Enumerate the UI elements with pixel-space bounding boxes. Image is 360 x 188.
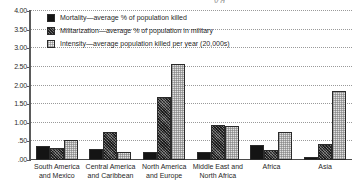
clipped-title-fragment: y g — [214, 0, 225, 3]
bar-mortality — [250, 145, 264, 160]
bar-mortality — [197, 152, 211, 160]
legend-item: Intensity—average population killed per … — [47, 37, 230, 50]
y-axis-tick-label: 2.50 — [1, 63, 27, 70]
x-axis-category-label: Asia — [298, 163, 352, 172]
x-axis-category-label: North America and Europe — [137, 163, 191, 180]
y-axis-tick-label: 2.00 — [1, 82, 27, 89]
x-axis-category-label: Middle East and North Africa — [191, 163, 245, 180]
bar-intensity — [278, 132, 292, 160]
bar-mortality — [36, 146, 50, 160]
legend-swatch-mortality — [47, 14, 55, 22]
y-axis-tick-label: .00 — [1, 156, 27, 163]
bar-group — [298, 11, 352, 160]
bar-group — [245, 11, 299, 160]
x-axis-category-label: South America and Mexico — [30, 163, 84, 180]
bar-militarization — [103, 132, 117, 160]
bar-mortality — [89, 149, 103, 160]
bar-chart: y g .00.501.001.502.002.503.003.504.00 S… — [0, 0, 360, 188]
bar-intensity — [117, 152, 131, 160]
y-axis-tick-label: 3.50 — [1, 26, 27, 33]
y-axis-tick-label: 4.00 — [1, 7, 27, 14]
legend-label: Mortality—average % of population killed — [60, 14, 187, 21]
bar-intensity — [225, 126, 239, 160]
bar-militarization — [264, 150, 278, 160]
bar-militarization — [211, 125, 225, 160]
y-axis-tick-label: 1.50 — [1, 100, 27, 107]
bar-militarization — [157, 97, 171, 160]
legend-item: Militarization—average % of population i… — [47, 24, 230, 37]
legend-label: Intensity—average population killed per … — [60, 40, 230, 47]
chart-legend: Mortality—average % of population killed… — [47, 11, 230, 50]
bar-intensity — [332, 91, 346, 160]
legend-label: Militarization—average % of population i… — [60, 27, 213, 34]
bar-intensity — [64, 140, 78, 160]
y-axis-tick — [27, 160, 31, 161]
legend-swatch-militarization — [47, 27, 55, 35]
legend-swatch-intensity — [47, 40, 55, 48]
bar-mortality — [143, 152, 157, 160]
bar-militarization — [318, 144, 332, 160]
x-axis-category-label: Africa — [245, 163, 299, 172]
y-axis-tick-label: 3.00 — [1, 44, 27, 51]
bar-mortality — [304, 157, 318, 160]
y-axis-tick-label: 1.00 — [1, 119, 27, 126]
bar-militarization — [50, 148, 64, 160]
bar-intensity — [171, 64, 185, 160]
x-axis-category-label: Central America and Caribbean — [84, 163, 138, 180]
y-axis-tick-label: .50 — [1, 137, 27, 144]
legend-item: Mortality—average % of population killed — [47, 11, 230, 24]
